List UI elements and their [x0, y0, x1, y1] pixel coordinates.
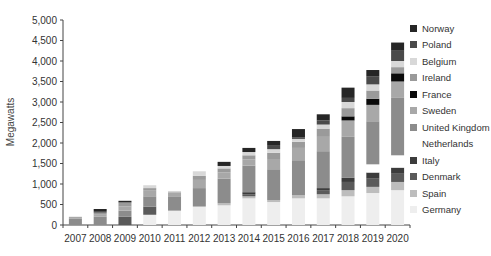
bar-2018	[342, 88, 355, 225]
legend-label: Norway	[422, 23, 454, 34]
bar-segment-sweden	[69, 217, 82, 219]
y-axis: 05001,0001,5002,0002,5003,0003,5004,0004…	[32, 15, 63, 231]
x-tick-label: 2012	[188, 233, 211, 244]
legend-label: Belgium	[422, 56, 456, 67]
bar-segment-ireland	[118, 202, 131, 206]
legend-swatch-icon	[410, 157, 417, 164]
legend-label: Denmark	[422, 171, 461, 182]
bar-segment-germany	[292, 198, 305, 225]
bar-segment-belgium	[342, 102, 355, 108]
bar-segment-poland	[317, 120, 330, 124]
bar-segment-belgium	[391, 61, 404, 67]
legend-swatch-icon	[410, 107, 417, 114]
legend-label: United Kingdom	[422, 122, 490, 133]
bar-segment-sweden	[168, 192, 181, 196]
y-tick-label: 4,500	[32, 35, 57, 46]
legend-item-norway: Norway	[410, 20, 491, 37]
bar-segment-spain	[366, 187, 379, 193]
legend-item-germany: Germany	[410, 202, 491, 219]
y-tick-label: 4,000	[32, 56, 57, 67]
bar-segment-germany	[267, 202, 280, 225]
legend-label: Sweden	[422, 105, 456, 116]
bar-segment-united-kingdom	[193, 188, 206, 206]
bar-segment-poland	[267, 145, 280, 149]
legend-item-sweden: Sweden	[410, 103, 491, 120]
y-tick-label: 0	[51, 220, 57, 231]
x-tick-label: 2013	[213, 233, 236, 244]
legend-item-ireland: Ireland	[410, 70, 491, 87]
legend-item-netherlands: Netherlands	[410, 136, 491, 153]
bar-segment-italy	[317, 188, 330, 190]
bar-segment-poland	[292, 137, 305, 139]
bar-segment-united-kingdom	[118, 211, 131, 217]
legend-swatch-icon	[410, 74, 417, 81]
x-axis: 2007200820092010201120122013201420152016…	[63, 225, 410, 244]
legend: NorwayPolandBelgiumIrelandFranceSwedenUn…	[410, 20, 491, 218]
bar-segment-germany	[218, 205, 231, 225]
legend-label: Poland	[422, 39, 452, 50]
bar-segment-ireland	[193, 176, 206, 180]
bar-segment-ireland	[317, 129, 330, 137]
x-tick-label: 2009	[114, 233, 137, 244]
legend-label: Germany	[422, 204, 461, 215]
bar-segment-belgium	[242, 152, 255, 155]
bar-segment-poland	[391, 51, 404, 61]
bars	[69, 43, 404, 225]
bar-2014	[242, 148, 255, 225]
bar-segment-sweden	[143, 190, 156, 196]
bar-segment-italy	[391, 168, 404, 174]
bar-segment-norway	[218, 162, 231, 166]
bar-segment-norway	[94, 209, 107, 211]
bar-segment-united-kingdom	[218, 179, 231, 204]
bar-segment-sweden	[366, 105, 379, 121]
bar-segment-united-kingdom	[267, 169, 280, 200]
bar-segment-denmark	[242, 194, 255, 196]
x-tick-label: 2016	[287, 233, 310, 244]
bar-segment-sweden	[391, 82, 404, 98]
bar-segment-united-kingdom	[69, 219, 82, 225]
bar-segment-denmark	[143, 207, 156, 215]
bar-segment-ireland	[242, 155, 255, 159]
x-tick-label: 2011	[164, 233, 186, 244]
bar-segment-ireland	[218, 168, 231, 172]
bar-segment-germany	[391, 190, 404, 225]
bar-segment-sweden	[193, 180, 206, 188]
bar-segment-sweden	[118, 207, 131, 211]
bar-segment-belgium	[267, 149, 280, 153]
bar-segment-spain	[242, 196, 255, 198]
y-tick-label: 2,500	[32, 117, 57, 128]
legend-item-denmark: Denmark	[410, 169, 491, 186]
bar-segment-germany	[168, 211, 181, 225]
bar-segment-united-kingdom	[391, 98, 404, 155]
bar-segment-france	[391, 73, 404, 81]
legend-swatch-icon	[410, 206, 417, 213]
bar-segment-italy	[366, 173, 379, 179]
bar-segment-norway	[292, 129, 305, 137]
bar-segment-belgium	[317, 125, 330, 129]
bar-2010	[143, 185, 156, 225]
bar-segment-poland	[366, 76, 379, 84]
y-tick-label: 3,500	[32, 76, 57, 87]
bar-segment-spain	[342, 190, 355, 196]
y-tick-label: 500	[40, 199, 57, 210]
bar-segment-spain	[292, 195, 305, 198]
bar-segment-united-kingdom	[168, 196, 181, 210]
bar-segment-netherlands	[366, 164, 379, 172]
y-tick-label: 2,000	[32, 138, 57, 149]
bar-segment-united-kingdom	[317, 151, 330, 188]
y-axis-label: Megawatts	[5, 98, 16, 146]
legend-label: Spain	[422, 188, 446, 199]
y-tick-label: 1,500	[32, 158, 57, 169]
bar-segment-poland	[94, 211, 107, 213]
x-tick-label: 2018	[337, 233, 360, 244]
legend-swatch-icon	[410, 25, 417, 32]
bar-segment-germany	[242, 198, 255, 225]
legend-label: Ireland	[422, 72, 451, 83]
legend-label: France	[422, 89, 452, 100]
bar-2015	[267, 141, 280, 225]
bar-segment-ireland	[292, 142, 305, 148]
bar-segment-ireland	[94, 213, 107, 215]
legend-item-poland: Poland	[410, 37, 491, 54]
bar-segment-spain	[391, 182, 404, 190]
bar-segment-sweden	[292, 148, 305, 160]
